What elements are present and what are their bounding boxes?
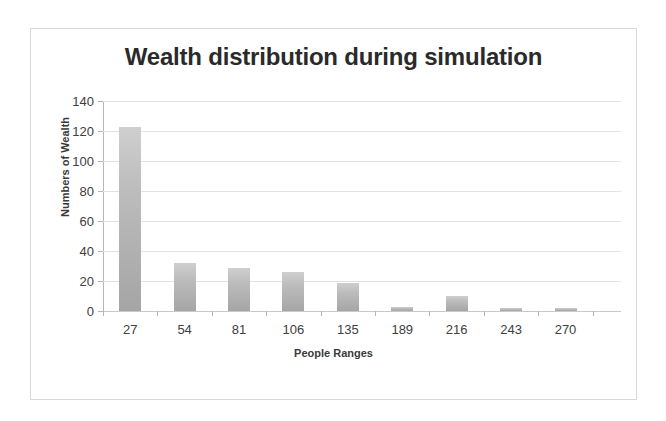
- x-tick-label: 270: [555, 322, 577, 337]
- y-tick-mark: [98, 101, 103, 102]
- gridline: [103, 221, 621, 222]
- bar: [555, 308, 577, 311]
- y-tick-label: 140: [72, 94, 94, 109]
- y-tick-mark: [98, 161, 103, 162]
- y-tick-mark: [98, 251, 103, 252]
- x-tick-label: 243: [500, 322, 522, 337]
- bar: [337, 283, 359, 312]
- y-tick-label: 20: [80, 274, 94, 289]
- y-tick-mark: [98, 221, 103, 222]
- y-tick-label: 100: [72, 154, 94, 169]
- bar: [119, 127, 141, 312]
- y-tick-mark: [98, 131, 103, 132]
- gridline: [103, 251, 621, 252]
- gridline: [103, 131, 621, 132]
- y-tick-mark: [98, 191, 103, 192]
- x-tick-label: 81: [232, 322, 246, 337]
- gridline: [103, 191, 621, 192]
- x-axis-title: People Ranges: [31, 347, 636, 359]
- bar: [446, 296, 468, 311]
- x-tick-mark: [321, 311, 322, 316]
- x-tick-mark: [484, 311, 485, 316]
- x-tick-mark: [538, 311, 539, 316]
- bar: [282, 272, 304, 311]
- x-tick-label: 189: [391, 322, 413, 337]
- y-tick-label: 120: [72, 124, 94, 139]
- bar: [391, 307, 413, 312]
- x-tick-mark: [157, 311, 158, 316]
- gridline: [103, 101, 621, 102]
- x-tick-label: 216: [446, 322, 468, 337]
- y-axis-title: Numbers of Wealth: [59, 87, 71, 247]
- plot-area: 020406080100120140 275481106135189216243…: [103, 101, 621, 311]
- bar: [228, 268, 250, 312]
- y-tick-label: 0: [87, 304, 94, 319]
- chart-title: Wealth distribution during simulation: [31, 43, 636, 71]
- x-tick-label: 54: [177, 322, 191, 337]
- chart-container: Wealth distribution during simulation Nu…: [30, 28, 637, 400]
- x-tick-label: 27: [123, 322, 137, 337]
- bar: [500, 308, 522, 311]
- y-tick-label: 60: [80, 214, 94, 229]
- x-tick-mark: [266, 311, 267, 316]
- x-tick-mark: [212, 311, 213, 316]
- y-tick-mark: [98, 281, 103, 282]
- x-tick-mark: [375, 311, 376, 316]
- x-tick-mark: [103, 311, 104, 316]
- bar: [174, 263, 196, 311]
- x-tick-mark: [429, 311, 430, 316]
- gridline: [103, 161, 621, 162]
- gridline: [103, 311, 621, 312]
- y-axis-line: [103, 101, 104, 311]
- x-tick-label: 135: [337, 322, 359, 337]
- x-tick-label: 106: [283, 322, 305, 337]
- y-tick-label: 40: [80, 244, 94, 259]
- x-tick-mark: [593, 311, 594, 316]
- y-tick-label: 80: [80, 184, 94, 199]
